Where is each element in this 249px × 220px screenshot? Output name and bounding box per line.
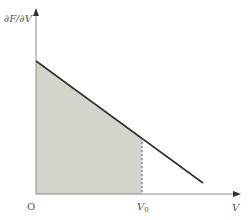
origin-label: O	[27, 201, 35, 212]
y-axis-arrow-icon	[33, 8, 39, 16]
v0-label-sub: 0	[144, 206, 148, 214]
diagram: ∂F/∂V V O V0	[0, 0, 249, 220]
x-axis-label: V	[232, 202, 241, 213]
v0-label: V0	[137, 201, 149, 214]
x-axis-arrow-icon	[233, 191, 241, 197]
y-axis-label: ∂F/∂V	[4, 13, 34, 24]
